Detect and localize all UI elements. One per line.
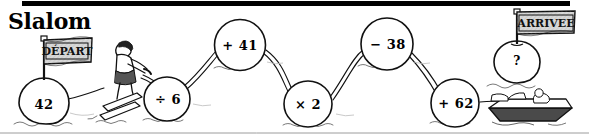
buoy-label-times-2: × 2	[295, 97, 321, 112]
finish-flag-label: ARRIVEE	[517, 17, 574, 30]
start-flag-label: DÉPART	[41, 45, 92, 58]
motorboat-figure	[489, 89, 572, 125]
buoy-label-answer: ?	[513, 54, 521, 68]
buoy-label-minus-38: − 38	[370, 37, 406, 52]
water-skier-figure	[88, 41, 151, 120]
buoy-label-divide: ÷ 6	[155, 92, 181, 107]
slalom-illustration: Slalom DÉPART ARRIVEE 42 ÷ 6 + 41 × 2 − …	[0, 0, 589, 135]
buoy-label-add-41: + 41	[222, 38, 258, 53]
buoy-label-start: 42	[34, 97, 53, 112]
page-title: Slalom	[8, 8, 91, 34]
buoy-label-add-62: + 62	[438, 96, 474, 111]
start-flag-graphic	[41, 36, 92, 80]
